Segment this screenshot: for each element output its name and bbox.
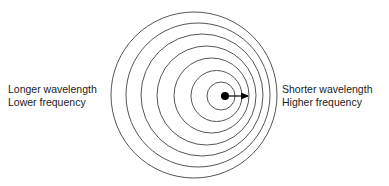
- wavefront-circle-2: [126, 23, 270, 167]
- wavefront-circle-3: [141, 34, 263, 156]
- wavefronts-group: [111, 12, 277, 178]
- wave-source-dot: [221, 92, 229, 100]
- wavefront-circle-1: [111, 12, 277, 178]
- doppler-diagram: [0, 0, 389, 186]
